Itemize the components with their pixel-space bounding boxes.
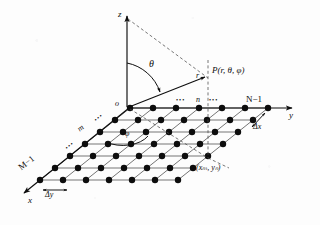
phi-label: φ	[125, 130, 129, 138]
spacing-dx-label: Δx	[253, 123, 261, 131]
theta-label: θ	[149, 59, 154, 69]
origin-label: o	[115, 100, 119, 108]
radius-vector-r	[129, 77, 205, 107]
spacing-dy-label: Δy	[45, 191, 53, 199]
axis-y-label: y	[289, 111, 293, 120]
angle-arc-theta	[127, 63, 160, 92]
point-p-label: P(r, θ, φ)	[212, 66, 244, 75]
grid-col-index-label: n	[196, 96, 200, 104]
radius-label: r	[196, 72, 199, 80]
axis-x-label: x	[28, 196, 32, 205]
ellipsis-top-left: •••	[176, 97, 185, 103]
grid-col-max-label: N−1	[246, 95, 262, 104]
dashed-z-to-p	[128, 19, 208, 78]
axis-z-label: z	[118, 10, 122, 19]
sample-point-label: (xₘ, yₙ)	[196, 164, 220, 172]
ellipsis-top-right: •••	[209, 97, 218, 103]
